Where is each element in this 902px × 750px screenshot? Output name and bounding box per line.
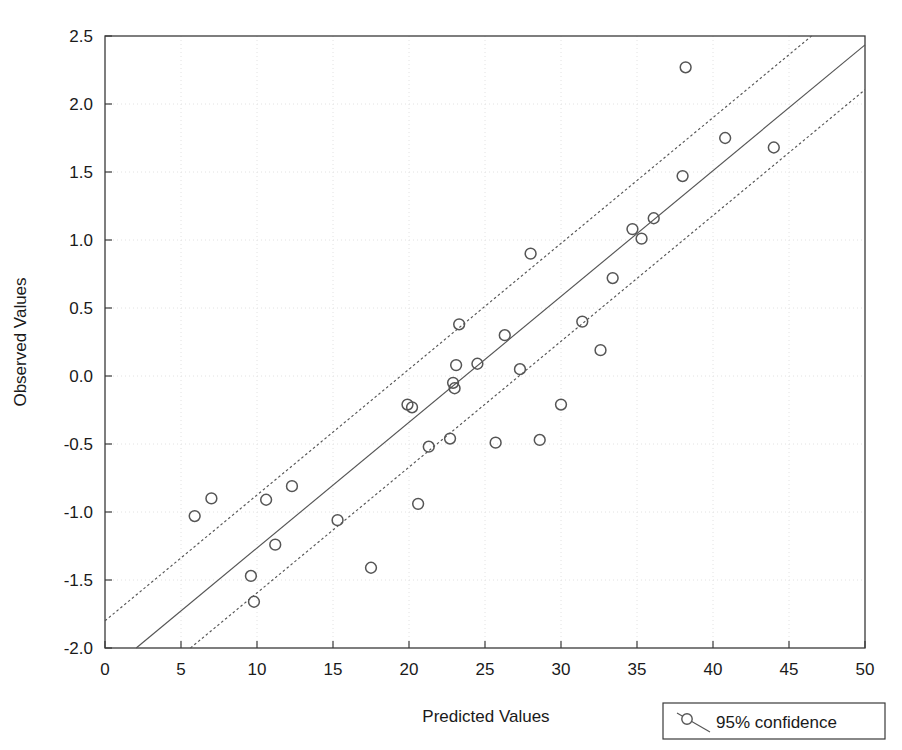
data-point [366, 562, 377, 573]
x-tick-label: 5 [176, 660, 185, 679]
data-point [525, 248, 536, 259]
data-point [249, 596, 260, 607]
data-point [720, 133, 731, 144]
data-point [607, 273, 618, 284]
data-point [595, 345, 606, 356]
x-tick-label: 25 [476, 660, 495, 679]
data-point [534, 435, 545, 446]
x-tick-label: 45 [780, 660, 799, 679]
y-tick-label: 2.5 [69, 27, 93, 46]
y-axis-title: Observed Values [11, 277, 30, 406]
data-point [246, 571, 257, 582]
y-tick-label: 0.0 [69, 367, 93, 386]
data-point [423, 441, 434, 452]
legend-box: 95% confidence [663, 703, 885, 739]
data-point [445, 433, 456, 444]
plot-canvas: 05101520253035404550 -2.0-1.5-1.0-0.50.0… [0, 0, 902, 750]
data-point [206, 493, 217, 504]
data-point [677, 171, 688, 182]
x-tick-label: 15 [324, 660, 343, 679]
x-tick-label: 0 [100, 660, 109, 679]
data-point [490, 437, 501, 448]
y-tick-label: -1.0 [64, 503, 93, 522]
data-points [189, 62, 779, 607]
x-axis-title: Predicted Values [422, 707, 549, 726]
data-point [454, 319, 465, 330]
data-point [270, 539, 281, 550]
data-point [515, 364, 526, 375]
data-point [189, 511, 200, 522]
data-point [261, 494, 272, 505]
y-tick-label: -1.5 [64, 571, 93, 590]
y-tick-labels: -2.0-1.5-1.0-0.50.00.51.01.52.02.5 [64, 27, 93, 658]
data-point [768, 142, 779, 153]
x-tick-label: 20 [400, 660, 419, 679]
regression-line [136, 45, 865, 648]
data-point [577, 316, 588, 327]
data-point [636, 233, 647, 244]
x-tick-label: 10 [248, 660, 267, 679]
data-point [332, 515, 343, 526]
legend-label: 95% confidence [716, 713, 837, 732]
x-tick-labels: 05101520253035404550 [100, 660, 874, 679]
grid-lines [105, 36, 865, 648]
y-tick-label: 1.0 [69, 231, 93, 250]
confidence-band-lower [190, 90, 865, 648]
confidence-band-upper [105, 36, 812, 621]
data-point [287, 481, 298, 492]
data-point [499, 330, 510, 341]
y-tick-label: 1.5 [69, 163, 93, 182]
y-tick-label: 2.0 [69, 95, 93, 114]
x-tick-label: 35 [628, 660, 647, 679]
scatter-plot-figure: 05101520253035404550 -2.0-1.5-1.0-0.50.0… [0, 0, 902, 750]
x-tick-label: 30 [552, 660, 571, 679]
data-point [648, 213, 659, 224]
y-tick-label: -2.0 [64, 639, 93, 658]
y-tick-label: 0.5 [69, 299, 93, 318]
data-point [627, 224, 638, 235]
x-tick-label: 50 [856, 660, 875, 679]
data-point [451, 360, 462, 371]
y-tick-label: -0.5 [64, 435, 93, 454]
data-point [413, 498, 424, 509]
data-point [472, 358, 483, 369]
x-tick-label: 40 [704, 660, 723, 679]
data-point [680, 62, 691, 73]
